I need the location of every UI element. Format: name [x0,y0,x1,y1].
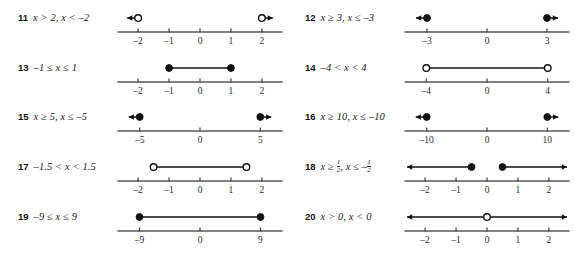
svg-text:0: 0 [198,235,203,245]
svg-text:0: 0 [485,36,490,46]
problem-19: 19–9 ≤ x ≤ 9–909 [0,201,287,251]
number-line-13: –2–1012 [0,52,287,102]
number-line-19: –909 [0,201,287,251]
svg-text:10: 10 [543,135,553,145]
number-line-18: –2–1012 [287,151,574,201]
svg-text:0: 0 [198,135,203,145]
problem-12: 12x ≥ 3, x ≤ –3–303 [287,2,574,52]
problem-11: 11x > 2, x < –2–2–1012 [0,2,287,52]
svg-text:3: 3 [545,36,550,46]
svg-text:4: 4 [545,86,550,96]
problem-18: 18x ≥ 12, x ≤ –12–2–1012 [287,151,574,201]
svg-text:0: 0 [485,135,490,145]
problem-20: 20x > 0, x < 0–2–1012 [287,201,574,251]
svg-text:–2: –2 [132,36,143,46]
svg-text:9: 9 [258,235,263,245]
svg-text:–1: –1 [163,185,174,195]
svg-text:–4: –4 [421,86,432,96]
svg-text:1: 1 [229,86,234,96]
problem-13: 13–1 ≤ x ≤ 1–2–1012 [0,52,287,102]
svg-text:1: 1 [516,235,521,245]
number-line-20: –2–1012 [287,201,574,251]
number-line-11: –2–1012 [0,2,287,52]
svg-text:–2: –2 [419,185,430,195]
svg-text:–3: –3 [421,36,432,46]
svg-text:–10: –10 [419,135,435,145]
svg-text:5: 5 [258,135,263,145]
problem-16: 16x ≥ 10, x ≤ –10–10010 [287,101,574,151]
number-line-15: –505 [0,101,287,151]
svg-text:2: 2 [260,185,265,195]
problem-17: 17–1.5 < x < 1.5–2–1012 [0,151,287,201]
svg-text:–5: –5 [134,135,145,145]
svg-text:1: 1 [229,36,234,46]
number-line-16: –10010 [287,101,574,151]
svg-text:0: 0 [198,36,203,46]
problem-15: 15x ≥ 5, x ≤ –5–505 [0,101,287,151]
svg-text:0: 0 [485,86,490,96]
svg-text:2: 2 [547,235,552,245]
svg-text:0: 0 [485,235,490,245]
worksheet-sheet: 11x > 2, x < –2–2–101212x ≥ 3, x ≤ –3–30… [0,0,574,260]
svg-text:1: 1 [516,185,521,195]
svg-text:–1: –1 [450,185,461,195]
svg-text:–2: –2 [132,185,143,195]
svg-text:–1: –1 [450,235,461,245]
svg-text:2: 2 [547,185,552,195]
svg-text:–2: –2 [132,86,143,96]
svg-text:–1: –1 [163,86,174,96]
svg-text:1: 1 [229,185,234,195]
number-line-12: –303 [287,2,574,52]
svg-text:2: 2 [260,86,265,96]
svg-text:–9: –9 [134,235,145,245]
svg-text:–2: –2 [419,235,430,245]
svg-text:0: 0 [198,185,203,195]
svg-text:2: 2 [260,36,265,46]
number-line-14: –404 [287,52,574,102]
svg-text:0: 0 [485,185,490,195]
problem-14: 14–4 < x < 4–404 [287,52,574,102]
svg-text:–1: –1 [163,36,174,46]
svg-text:0: 0 [198,86,203,96]
number-line-17: –2–1012 [0,151,287,201]
